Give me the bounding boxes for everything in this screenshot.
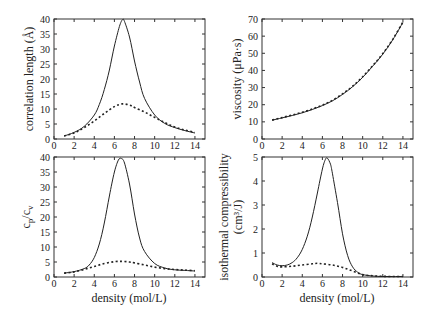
x-tick-label: 6 (320, 278, 325, 289)
x-tick-label: 2 (280, 140, 285, 151)
y-tick-label: 0 (45, 272, 50, 283)
x-tick-label: 2 (72, 278, 77, 289)
series-solid-line (64, 158, 195, 273)
y-tick-label: 60 (248, 31, 258, 42)
y-tick-label: 40 (248, 65, 258, 76)
y-tick-label: 2 (253, 224, 258, 235)
y-tick-label: 4 (253, 176, 258, 187)
x-tick-label: 0 (260, 278, 265, 289)
x-tick-label: 0 (260, 140, 265, 151)
x-tick-label: 8 (132, 278, 137, 289)
y-tick-label: 15 (40, 227, 50, 238)
x-tick-label: 4 (300, 278, 305, 289)
y-tick-label: 30 (40, 182, 50, 193)
x-tick-label: 0 (52, 278, 57, 289)
y-tick-label: 20 (248, 99, 258, 110)
y-tick-label: 0 (253, 272, 258, 283)
y-tick-label: 10 (40, 242, 50, 253)
y-tick-label: 0 (253, 134, 258, 145)
y-tick-label: 35 (40, 167, 50, 178)
x-tick-label: 14 (398, 140, 408, 151)
x-tick-label: 12 (378, 140, 388, 151)
xlabel-compressibility: density (mol/L) (300, 291, 375, 305)
x-tick-label: 2 (72, 140, 77, 151)
x-tick-label: 8 (340, 140, 345, 151)
x-tick-label: 14 (190, 140, 200, 151)
x-tick-label: 8 (340, 278, 345, 289)
ylabel-viscosity: viscosity (μPa·s) (230, 39, 244, 120)
series-dotted-line (272, 22, 403, 120)
series-solid-line (272, 158, 403, 277)
y-tick-label: 5 (45, 119, 50, 130)
y-tick-label: 25 (40, 197, 50, 208)
x-tick-label: 4 (92, 140, 97, 151)
panel-cp-cv: 024681012140510152025303540 (40, 152, 205, 290)
ylabel-correlation-length: correlation length (Å) (22, 27, 36, 132)
x-tick-label: 10 (150, 278, 160, 289)
panel-isothermal-compressibility: 02468101214012345 (253, 152, 413, 290)
y-tick-label: 1 (253, 248, 258, 259)
x-tick-label: 6 (320, 140, 325, 151)
y-tick-label: 30 (40, 44, 50, 55)
y-tick-label: 15 (40, 89, 50, 100)
ylabel-sep: /c (19, 210, 33, 219)
y-tick-label: 10 (40, 104, 50, 115)
ylabel-cp-cv: cp/cv (19, 205, 35, 229)
panel-correlation-length: 024681012140510152025303540 (40, 14, 205, 152)
y-tick-label: 30 (248, 82, 258, 93)
x-tick-label: 8 (132, 140, 137, 151)
x-tick-label: 14 (398, 278, 408, 289)
y-tick-label: 5 (45, 257, 50, 268)
y-tick-label: 20 (40, 74, 50, 85)
x-tick-label: 0 (52, 140, 57, 151)
series-solid-line (272, 22, 403, 120)
y-tick-label: 10 (248, 116, 258, 127)
y-tick-label: 40 (40, 14, 50, 25)
x-tick-label: 4 (300, 140, 305, 151)
ylabel-compressibility-line1: isothermal compressibility (217, 153, 231, 281)
plot-frame (262, 157, 413, 277)
x-tick-label: 12 (170, 140, 180, 151)
series-dotted-line (64, 261, 195, 273)
x-tick-label: 12 (170, 278, 180, 289)
series-dotted-line (64, 104, 195, 136)
y-tick-label: 0 (45, 134, 50, 145)
x-tick-label: 10 (150, 140, 160, 151)
ylabel-compressibility-line2: (cm³/J) (231, 200, 245, 234)
xlabel-cp-cv: density (mol/L) (92, 291, 167, 305)
x-tick-label: 6 (112, 278, 117, 289)
y-tick-label: 50 (248, 48, 258, 59)
ylabel-sub-v: v (25, 205, 35, 210)
plot-frame (262, 19, 413, 139)
x-tick-label: 14 (190, 278, 200, 289)
panel-viscosity: 02468101214010203040506070 (248, 14, 413, 152)
x-tick-label: 4 (92, 278, 97, 289)
y-tick-label: 35 (40, 29, 50, 40)
y-tick-label: 5 (253, 152, 258, 163)
y-tick-label: 25 (40, 59, 50, 70)
x-tick-label: 12 (378, 278, 388, 289)
figure: 024681012140510152025303540 024681012140… (0, 0, 429, 312)
x-tick-label: 10 (358, 278, 368, 289)
y-tick-label: 3 (253, 200, 258, 211)
y-tick-label: 40 (40, 152, 50, 163)
y-tick-label: 20 (40, 212, 50, 223)
plot-frame (54, 157, 205, 277)
y-tick-label: 70 (248, 14, 258, 25)
x-tick-label: 6 (112, 140, 117, 151)
x-tick-label: 10 (358, 140, 368, 151)
series-solid-line (64, 19, 195, 136)
x-tick-label: 2 (280, 278, 285, 289)
